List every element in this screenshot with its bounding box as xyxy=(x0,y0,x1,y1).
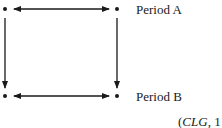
period-a-label: Period A xyxy=(136,3,182,16)
relationship-diagram xyxy=(0,0,222,128)
citation-rest: , 1 xyxy=(208,114,221,128)
node-dot-top-right xyxy=(115,7,119,11)
citation-source: CLG xyxy=(182,114,207,128)
node-dot-bottom-left xyxy=(3,94,7,98)
node-dot-top-left xyxy=(3,7,7,11)
citation: (CLG, 1 xyxy=(178,115,221,128)
node-dot-bottom-right xyxy=(115,94,119,98)
period-b-label: Period B xyxy=(136,90,182,103)
